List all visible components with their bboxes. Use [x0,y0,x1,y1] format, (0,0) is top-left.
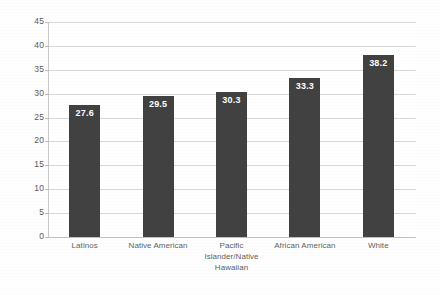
bars-layer: 27.629.530.333.338.2 [48,22,415,237]
y-axis-tick-label: 45 [4,17,44,26]
category-label-line: African American [268,240,341,251]
category-label-line: Islander/Native [195,251,268,262]
bar-chart: 051015202530354045 27.629.530.333.338.2 … [0,0,440,295]
y-axis-tick-label: 40 [4,41,44,50]
bar: 30.3 [216,92,247,237]
category-label: African American [268,240,341,251]
y-axis-tick-label: 5 [4,208,44,217]
y-axis-tick-label: 25 [4,113,44,122]
category-label: Native American [121,240,194,251]
x-axis-category-labels: LatinosNative AmericanPacificIslander/Na… [48,240,415,292]
category-label: PacificIslander/NativeHawaiian [195,240,268,273]
y-axis-tick-label: 10 [4,184,44,193]
gridline [49,237,416,238]
category-label: Latinos [48,240,121,251]
category-label: White [342,240,415,251]
bar-value-label: 29.5 [143,99,174,109]
bar-value-label: 33.3 [289,81,320,91]
y-axis-tick-label: 35 [4,65,44,74]
y-axis-tick-label: 30 [4,89,44,98]
category-label-line: Native American [121,240,194,251]
bar: 27.6 [69,105,100,237]
y-axis-tick-label: 0 [4,232,44,241]
bar-value-label: 38.2 [363,58,394,68]
bar: 33.3 [289,78,320,237]
bar: 29.5 [143,96,174,237]
y-axis-tick-labels: 051015202530354045 [0,0,44,295]
bar: 38.2 [363,55,394,238]
y-axis-tick-label: 15 [4,160,44,169]
category-label-line: White [342,240,415,251]
y-axis-tick-mark [45,237,49,238]
category-label-line: Pacific [195,240,268,251]
bar-value-label: 27.6 [69,108,100,118]
category-label-line: Latinos [48,240,121,251]
category-label-line: Hawaiian [195,262,268,273]
bar-value-label: 30.3 [216,95,247,105]
y-axis-tick-label: 20 [4,136,44,145]
